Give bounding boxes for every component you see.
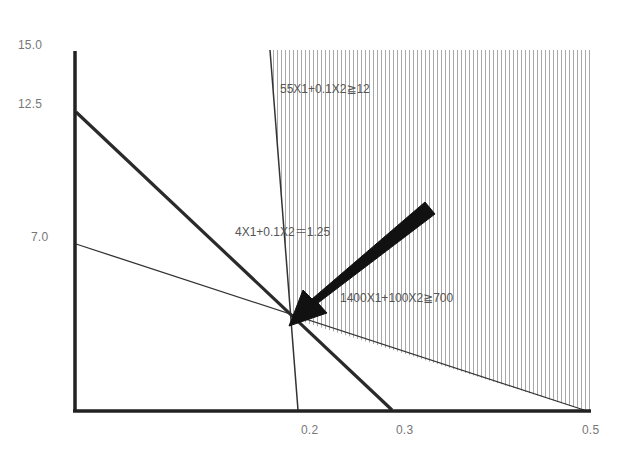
x-tick-label: 0.3 [396,423,413,437]
constraint-label-2: 4X1+0.1X2＝1.25 [235,222,330,239]
x-tick-label: 0.5 [582,423,599,437]
y-tick-label: 15.0 [18,38,42,52]
y-tick-label: 12.5 [18,97,42,111]
constraint-label-1: 55X1+0.1X2≧12 [280,82,370,96]
constraint-label-3: 1400X1+100X2≧700 [340,291,453,305]
x-tick-label: 0.2 [301,423,318,437]
y-tick-label: 7.0 [31,230,48,244]
